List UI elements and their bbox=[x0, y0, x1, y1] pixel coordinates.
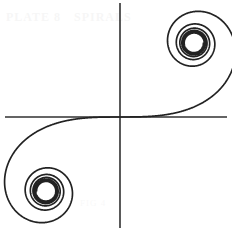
cornu-spiral-figure: PLATE 8 SPIRALS FIG 4 bbox=[0, 0, 232, 230]
plot-canvas bbox=[0, 0, 232, 230]
